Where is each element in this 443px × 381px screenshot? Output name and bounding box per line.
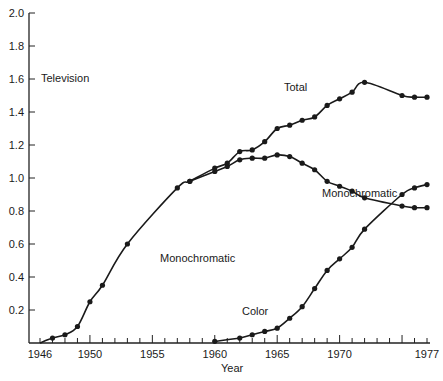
data-point-total xyxy=(312,114,317,119)
data-point-total xyxy=(100,283,105,288)
data-point-monochromatic xyxy=(225,164,230,169)
chart-title: Television xyxy=(41,72,89,84)
data-point-total xyxy=(287,123,292,128)
data-point-monochromatic xyxy=(262,156,267,161)
y-tick-label: 1.2 xyxy=(9,139,24,151)
data-point-monochromatic xyxy=(287,154,292,159)
data-point-total xyxy=(424,95,429,100)
data-point-color xyxy=(312,286,317,291)
y-tick-label: 0.4 xyxy=(9,271,24,283)
data-point-monochromatic xyxy=(250,156,255,161)
series-label-total: Total xyxy=(284,81,307,93)
data-point-total xyxy=(50,335,55,340)
data-point-color xyxy=(349,245,354,250)
data-point-total xyxy=(325,103,330,108)
data-point-total xyxy=(62,332,67,337)
data-point-total xyxy=(87,299,92,304)
y-tick-label: 2.0 xyxy=(9,7,24,19)
x-axis-label: Year xyxy=(221,362,243,374)
data-point-total xyxy=(250,147,255,152)
data-point-total xyxy=(237,149,242,154)
data-point-total xyxy=(349,90,354,95)
series-line-color xyxy=(215,185,427,342)
data-point-monochromatic xyxy=(237,157,242,162)
data-point-color xyxy=(337,256,342,261)
y-tick-label: 0.2 xyxy=(9,304,24,316)
data-point-color xyxy=(300,304,305,309)
data-point-monochromatic xyxy=(399,203,404,208)
data-point-color xyxy=(424,182,429,187)
data-point-color xyxy=(262,329,267,334)
region-label-monochromatic: Monochromatic xyxy=(160,252,235,264)
data-point-monochromatic xyxy=(300,161,305,166)
y-tick-label: 1.6 xyxy=(9,73,24,85)
data-point-total xyxy=(399,93,404,98)
x-tick-label: 1960 xyxy=(203,348,227,360)
data-point-monochromatic xyxy=(424,205,429,210)
x-tick-label: 1970 xyxy=(327,348,351,360)
data-point-color xyxy=(212,339,217,344)
data-point-total xyxy=(262,139,267,144)
chart-container: 0.20.40.60.81.01.21.41.61.82.01946195019… xyxy=(0,0,443,381)
data-point-total xyxy=(337,96,342,101)
series-label-monochromatic: Monochromatic xyxy=(322,187,397,199)
data-point-color xyxy=(412,185,417,190)
x-tick-label: 1946 xyxy=(28,348,52,360)
data-point-monochromatic xyxy=(212,169,217,174)
data-point-monochromatic xyxy=(275,152,280,157)
data-point-color xyxy=(250,332,255,337)
y-tick-label: 1.8 xyxy=(9,40,24,52)
y-tick-label: 0.8 xyxy=(9,205,24,217)
data-point-monochromatic xyxy=(187,179,192,184)
data-point-color xyxy=(362,227,367,232)
x-tick-label: 1950 xyxy=(78,348,102,360)
series-line-total xyxy=(40,82,427,343)
x-tick-label: 1977 xyxy=(415,348,439,360)
data-point-monochromatic xyxy=(325,179,330,184)
series-label-color: Color xyxy=(242,305,268,317)
data-point-total xyxy=(362,80,367,85)
data-point-total xyxy=(412,95,417,100)
data-point-total xyxy=(175,185,180,190)
data-point-monochromatic xyxy=(312,167,317,172)
data-point-color xyxy=(287,316,292,321)
data-point-total xyxy=(125,241,130,246)
data-point-total xyxy=(75,324,80,329)
x-tick-label: 1965 xyxy=(265,348,289,360)
y-tick-label: 0.6 xyxy=(9,238,24,250)
data-point-total xyxy=(275,126,280,131)
data-point-color xyxy=(325,268,330,273)
y-tick-label: 1.0 xyxy=(9,172,24,184)
x-tick-label: 1955 xyxy=(140,348,164,360)
data-point-color xyxy=(237,335,242,340)
y-tick-label: 1.4 xyxy=(9,106,24,118)
data-point-color xyxy=(399,192,404,197)
data-point-color xyxy=(275,326,280,331)
data-point-monochromatic xyxy=(412,205,417,210)
data-point-total xyxy=(300,118,305,123)
